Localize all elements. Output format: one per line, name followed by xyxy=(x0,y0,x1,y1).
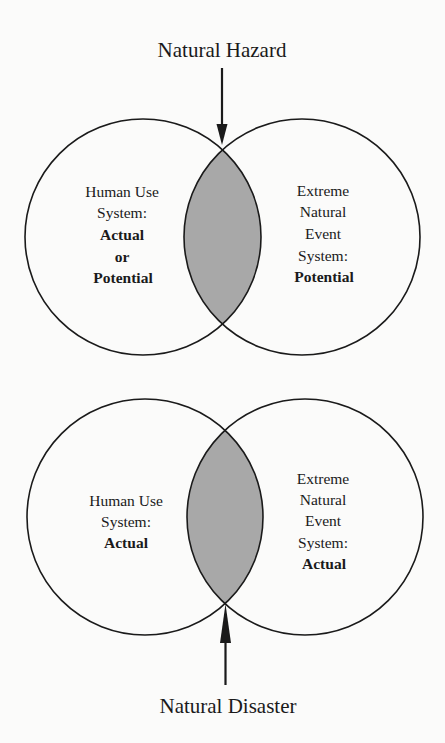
overlap-region xyxy=(184,119,420,355)
svg-text:Human Use: Human Use xyxy=(85,183,159,200)
arrow-up-icon xyxy=(220,604,231,685)
human-use-text: Human Use System: Actual or Potential xyxy=(85,183,159,286)
svg-text:Potential: Potential xyxy=(93,269,153,286)
natural-event-text: Extreme Natural Event System: Potential xyxy=(294,182,354,285)
svg-text:System:: System: xyxy=(101,513,151,530)
svg-text:or: or xyxy=(115,248,130,265)
svg-text:Actual: Actual xyxy=(104,534,149,551)
svg-text:Human Use: Human Use xyxy=(89,492,163,509)
natural-disaster-diagram: Human Use System: Actual Extreme Natural… xyxy=(27,399,423,718)
svg-text:Actual: Actual xyxy=(302,555,347,572)
svg-text:Extreme: Extreme xyxy=(297,470,350,487)
svg-text:System:: System: xyxy=(97,204,147,221)
natural-hazard-diagram: Natural Hazard Human Use System: Actual … xyxy=(25,38,420,355)
svg-text:Event: Event xyxy=(305,225,342,242)
svg-text:Event: Event xyxy=(305,512,342,529)
svg-text:Natural: Natural xyxy=(300,491,346,508)
svg-text:Extreme: Extreme xyxy=(297,182,350,199)
svg-text:Actual: Actual xyxy=(100,226,145,243)
natural-disaster-label: Natural Disaster xyxy=(159,694,296,718)
svg-text:Potential: Potential xyxy=(294,268,354,285)
svg-text:System:: System: xyxy=(298,247,348,264)
svg-text:Natural: Natural xyxy=(300,203,346,220)
human-use-text: Human Use System: Actual xyxy=(89,492,163,551)
natural-hazard-label: Natural Hazard xyxy=(158,38,287,62)
natural-event-text: Extreme Natural Event System: Actual xyxy=(297,470,350,572)
arrow-down-icon xyxy=(217,68,228,145)
venn-diagrams: Natural Hazard Human Use System: Actual … xyxy=(0,0,445,743)
svg-text:System:: System: xyxy=(298,534,348,551)
